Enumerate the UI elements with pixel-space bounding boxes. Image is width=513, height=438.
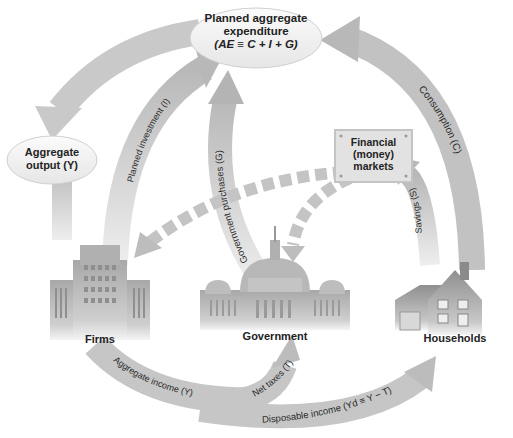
government-label: Government [230, 330, 320, 343]
firms-label: Firms [70, 333, 130, 346]
planned-expenditure-label: Planned aggregate expenditure (AE ≡ C + … [190, 12, 322, 52]
diagram-canvas: Consumption (C) Planned investment (I) G… [0, 0, 513, 438]
households-house-icon [395, 262, 482, 335]
firms-building-icon [50, 245, 150, 340]
circular-flow-diagram: Consumption (C) Planned investment (I) G… [0, 0, 513, 438]
dashed-arrow-to-government [281, 178, 350, 262]
financial-markets-label: Financial (money) markets [335, 136, 412, 172]
aggregate-output-label: Aggregate output (Y) [8, 146, 96, 171]
households-label: Households [410, 332, 500, 345]
government-capitol-icon [200, 226, 350, 330]
